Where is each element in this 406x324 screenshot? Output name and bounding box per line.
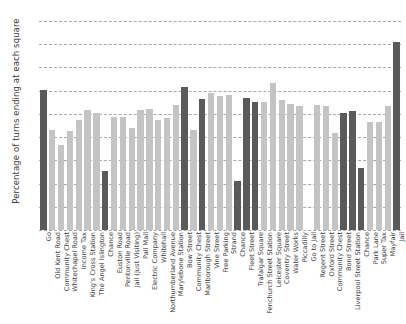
x-label-slot: Jail bbox=[392, 232, 401, 324]
bar bbox=[129, 128, 135, 230]
bar-slot bbox=[92, 21, 101, 230]
bar-slot bbox=[154, 21, 163, 230]
x-label-slot: Income Tax bbox=[74, 232, 83, 324]
x-label-slot: Pall Mall bbox=[136, 232, 145, 324]
bar bbox=[287, 104, 293, 230]
bar bbox=[296, 106, 302, 230]
x-label-slot: Water Works bbox=[286, 232, 295, 324]
x-label-slot: Fenchurch Street Station bbox=[260, 232, 269, 324]
bar bbox=[84, 110, 90, 230]
bar bbox=[340, 113, 346, 230]
x-label-slot: King's Cross Station bbox=[83, 232, 92, 324]
bar-slot bbox=[207, 21, 216, 230]
bar bbox=[314, 105, 320, 230]
x-label-slot: Trafalgar Square bbox=[251, 232, 260, 324]
bar bbox=[252, 102, 258, 230]
bar-slot bbox=[374, 21, 383, 230]
bar-slot bbox=[269, 21, 278, 230]
bar bbox=[137, 110, 143, 230]
bar-slot bbox=[286, 21, 295, 230]
x-label-slot: Go bbox=[39, 232, 48, 324]
x-label-slot: Vine Street bbox=[207, 232, 216, 324]
bar bbox=[49, 130, 55, 230]
x-label-slot: Community Chest bbox=[189, 232, 198, 324]
x-label-slot: Electric Company bbox=[145, 232, 154, 324]
bar bbox=[367, 122, 373, 230]
bar bbox=[226, 95, 232, 230]
bar-slot bbox=[366, 21, 375, 230]
bar bbox=[58, 145, 64, 230]
x-label-slot: Old Kent Road bbox=[48, 232, 57, 324]
bar bbox=[111, 117, 117, 230]
bar bbox=[76, 120, 82, 230]
x-label-slot: Coventry Street bbox=[277, 232, 286, 324]
x-label-slot: Oxford Street bbox=[322, 232, 331, 324]
x-label-slot: Strand bbox=[224, 232, 233, 324]
bar-slot bbox=[57, 21, 66, 230]
bar-slot bbox=[48, 21, 57, 230]
bar bbox=[261, 102, 267, 230]
bar-slot bbox=[313, 21, 322, 230]
x-axis-tick-label: Jail bbox=[399, 232, 406, 242]
x-axis-labels: GoOld Kent RoadCommunity ChestWhitechape… bbox=[39, 232, 401, 324]
bar bbox=[190, 130, 196, 230]
bar bbox=[199, 99, 205, 230]
bar bbox=[376, 122, 382, 230]
bar bbox=[102, 171, 108, 230]
x-label-slot: Pentonville Road bbox=[118, 232, 127, 324]
bar bbox=[393, 42, 399, 230]
bar bbox=[173, 105, 179, 230]
bar-slot bbox=[198, 21, 207, 230]
x-label-slot: Northumberland Avenue bbox=[163, 232, 172, 324]
bar-slot bbox=[65, 21, 74, 230]
bar-slot bbox=[163, 21, 172, 230]
x-label-slot: Marlborough Street bbox=[198, 232, 207, 324]
bar-slot bbox=[233, 21, 242, 230]
x-label-slot: Community Chest bbox=[330, 232, 339, 324]
x-label-slot: Community Chest bbox=[57, 232, 66, 324]
bar bbox=[217, 96, 223, 230]
bar bbox=[358, 168, 364, 230]
x-label-slot: Bow Street bbox=[180, 232, 189, 324]
bar bbox=[155, 120, 161, 230]
bar-slot bbox=[101, 21, 110, 230]
x-label-slot: Chance bbox=[357, 232, 366, 324]
bar-slot bbox=[392, 21, 401, 230]
bar-slot bbox=[251, 21, 260, 230]
bar bbox=[40, 90, 46, 230]
bar-slot bbox=[348, 21, 357, 230]
bar bbox=[234, 181, 240, 230]
bar-slot bbox=[136, 21, 145, 230]
bar-slot bbox=[83, 21, 92, 230]
x-label-slot: Regent Street bbox=[313, 232, 322, 324]
bar bbox=[349, 111, 355, 230]
bar bbox=[270, 83, 276, 230]
x-label-slot: Go to Jail bbox=[304, 232, 313, 324]
x-label-slot: Fleet Street bbox=[242, 232, 251, 324]
x-label-slot: Free Parking bbox=[216, 232, 225, 324]
bar-slot bbox=[304, 21, 313, 230]
bar-slot bbox=[127, 21, 136, 230]
bar-slot bbox=[295, 21, 304, 230]
bar-slot bbox=[189, 21, 198, 230]
bar bbox=[120, 117, 126, 230]
bar-slot bbox=[118, 21, 127, 230]
x-label-slot: Bond Street bbox=[339, 232, 348, 324]
plot-area: 4.5%4.0%3.5%3.0%2.5%2.0%1.5%1.0%0.5%0% bbox=[39, 21, 401, 230]
bar-slot bbox=[339, 21, 348, 230]
bar-slot bbox=[357, 21, 366, 230]
bar bbox=[93, 113, 99, 230]
bar-slot bbox=[145, 21, 154, 230]
x-label-slot: Euston Road bbox=[110, 232, 119, 324]
bar-slot bbox=[74, 21, 83, 230]
x-label-slot: Jail (Just Visiting) bbox=[127, 232, 136, 324]
bar-slot bbox=[216, 21, 225, 230]
x-label-slot: Chance bbox=[101, 232, 110, 324]
bar bbox=[208, 93, 214, 230]
bar-slot bbox=[330, 21, 339, 230]
bar-slot bbox=[260, 21, 269, 230]
y-axis-title: Percentage of turns ending at each squar… bbox=[11, 2, 21, 220]
bar bbox=[323, 106, 329, 230]
x-label-slot: Mayfair bbox=[383, 232, 392, 324]
